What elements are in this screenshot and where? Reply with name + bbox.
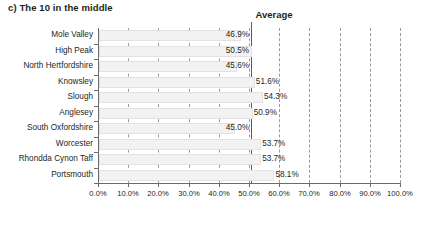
x-tick-label: 0.0% <box>89 189 106 198</box>
bar <box>99 154 261 165</box>
gridline <box>400 28 401 183</box>
category-label: Anglesey <box>59 108 93 117</box>
category-label: South Oxfordshire <box>27 123 93 132</box>
x-tick <box>128 183 129 187</box>
bar <box>99 92 263 103</box>
x-tick-label: 50.0% <box>238 189 260 198</box>
gridline <box>340 28 341 183</box>
x-tick <box>279 183 280 187</box>
category-label: North Hertfordshire <box>23 61 93 70</box>
value-label: 50.5% <box>226 46 249 55</box>
x-tick-label: 10.0% <box>117 189 139 198</box>
x-tick-label: 30.0% <box>178 189 200 198</box>
y-tick <box>94 168 98 169</box>
bar <box>99 139 261 150</box>
x-tick-label: 70.0% <box>298 189 320 198</box>
x-tick <box>98 183 99 187</box>
x-tick <box>309 183 310 187</box>
y-tick <box>94 152 98 153</box>
category-label: Rhondda Cynon Taff <box>19 154 93 163</box>
y-tick <box>94 121 98 122</box>
category-label: Worcester <box>56 139 93 148</box>
y-tick <box>94 106 98 107</box>
bar <box>99 170 274 181</box>
bar <box>99 123 235 134</box>
value-label: 51.6% <box>256 77 279 86</box>
x-tick <box>340 183 341 187</box>
value-label: 45.0% <box>226 123 249 132</box>
x-tick-label: 60.0% <box>268 189 290 198</box>
category-label: Knowsley <box>58 77 93 86</box>
y-tick <box>94 44 98 45</box>
x-tick-label: 80.0% <box>329 189 351 198</box>
bar <box>99 30 241 41</box>
x-tick <box>400 183 401 187</box>
gridline <box>309 28 310 183</box>
x-tick <box>158 183 159 187</box>
y-tick <box>94 137 98 138</box>
category-label: Slough <box>68 92 94 101</box>
category-label: Mole Valley <box>51 30 93 39</box>
value-label: 46.9% <box>226 30 249 39</box>
bar <box>99 61 237 72</box>
value-label: 54.3% <box>264 92 287 101</box>
x-tick <box>249 183 250 187</box>
category-label: Portsmouth <box>51 170 93 179</box>
x-tick-label: 20.0% <box>147 189 169 198</box>
value-label: 50.9% <box>254 108 277 117</box>
x-tick-label: 40.0% <box>208 189 230 198</box>
x-tick-label: 90.0% <box>359 189 381 198</box>
value-label: 53.7% <box>262 139 285 148</box>
value-label: 53.7% <box>262 154 285 163</box>
y-tick <box>94 75 98 76</box>
x-tick <box>189 183 190 187</box>
gridline <box>370 28 371 183</box>
x-tick-label: 100.0% <box>387 189 413 198</box>
category-label: High Peak <box>55 46 93 55</box>
bar <box>99 108 253 119</box>
x-tick <box>370 183 371 187</box>
y-tick <box>94 59 98 60</box>
value-label: 58.1% <box>275 170 298 179</box>
x-tick <box>219 183 220 187</box>
y-tick <box>94 90 98 91</box>
bar <box>99 77 255 88</box>
value-label: 45.6% <box>226 61 249 70</box>
